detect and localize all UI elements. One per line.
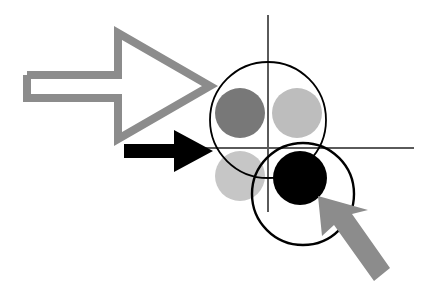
figure-canvas: Abstract diagram: arrows pointing at ove… <box>0 0 433 288</box>
dot-lower-left <box>215 151 265 201</box>
abstract-diagram <box>0 0 433 288</box>
dot-upper-left <box>215 88 265 138</box>
dot-upper-right <box>272 88 322 138</box>
